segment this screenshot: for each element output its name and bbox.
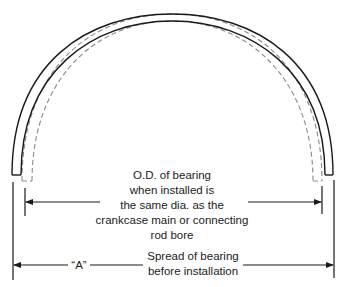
- spread-bearing-shell: [12, 14, 333, 175]
- spread-label-line-1: Spread of bearing: [147, 250, 238, 262]
- installed-label-line-2: when installed is: [129, 184, 215, 196]
- installed-label-line-5: rod bore: [151, 229, 194, 241]
- installed-label-line-3: the same dia. as the: [120, 199, 224, 211]
- spread-marker-a: “A”: [71, 259, 87, 271]
- bearing-spread-diagram: O.D. of bearing when installed is the sa…: [0, 0, 345, 287]
- installed-bearing-shell: [22, 14, 322, 181]
- spread-label-line-2: before installation: [148, 265, 238, 277]
- installed-label-line-4: crankcase main or connecting: [96, 214, 249, 226]
- installed-od-label: O.D. of bearing when installed is the sa…: [96, 169, 249, 241]
- installed-label-line-1: O.D. of bearing: [133, 169, 211, 181]
- spread-label: Spread of bearing before installation: [147, 250, 238, 277]
